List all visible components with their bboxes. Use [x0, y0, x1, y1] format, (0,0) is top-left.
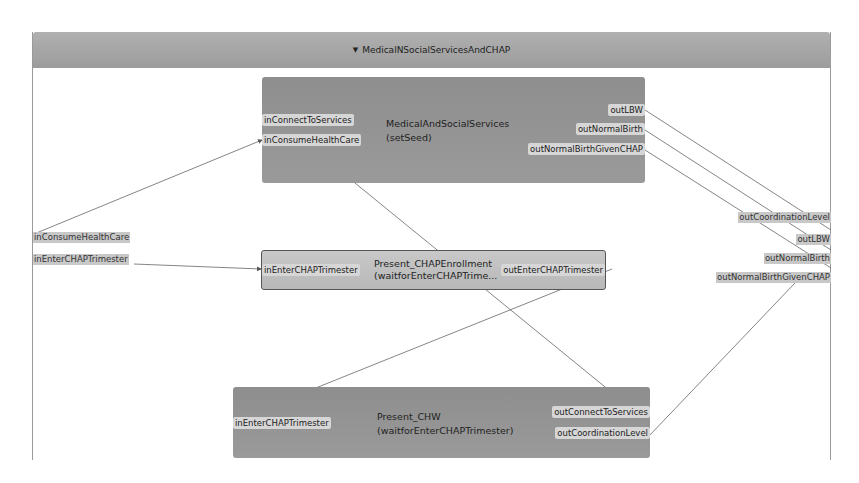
output-port[interactable]: outCoordinationLevel	[555, 427, 650, 439]
external-output-port[interactable]: outLBW	[796, 234, 831, 245]
input-port[interactable]: inEnterCHAPTrimester	[233, 417, 331, 429]
block-present-chw[interactable]: inEnterCHAPTrimester Present_CHW (waitfo…	[233, 387, 650, 458]
block-subtitle: (waitforEnterCHAPTrime...	[374, 270, 497, 282]
external-output-port[interactable]: outNormalBirth	[764, 253, 831, 264]
block-present-chap-enrollment[interactable]: inEnterCHAPTrimester Present_CHAPEnrollm…	[261, 250, 606, 290]
block-subtitle: (setSeed)	[386, 132, 432, 144]
container-title: MedicalNSocialServicesAndCHAP	[362, 45, 510, 55]
block-subtitle: (waitforEnterCHAPTrimester)	[377, 425, 513, 437]
output-port[interactable]: outNormalBirth	[576, 123, 645, 135]
input-port[interactable]: inConsumeHealthCare	[262, 134, 361, 146]
output-port[interactable]: outConnectToServices	[552, 406, 650, 418]
output-port[interactable]: outLBW	[608, 104, 645, 116]
block-title: Present_CHW	[377, 411, 441, 423]
external-input-port[interactable]: inEnterCHAPTrimester	[33, 254, 129, 265]
output-port[interactable]: outNormalBirthGivenCHAP	[528, 143, 645, 155]
block-medical-and-social-services[interactable]: inConnectToServices inConsumeHealthCare …	[262, 77, 645, 183]
input-port[interactable]: inEnterCHAPTrimester	[262, 264, 360, 276]
external-output-port[interactable]: outNormalBirthGivenCHAP	[716, 272, 831, 283]
output-port[interactable]: outEnterCHAPTrimester	[501, 264, 605, 276]
container-header[interactable]: ▼ MedicalNSocialServicesAndCHAP	[33, 32, 830, 68]
block-title: Present_CHAPEnrollment	[374, 258, 492, 270]
triangle-down-icon[interactable]: ▼	[353, 46, 358, 54]
input-port[interactable]: inConnectToServices	[262, 114, 354, 126]
external-input-port[interactable]: inConsumeHealthCare	[33, 232, 130, 243]
external-output-port[interactable]: outCoordinationLevel	[738, 212, 831, 223]
block-title: MedicalAndSocialServices	[386, 118, 509, 130]
